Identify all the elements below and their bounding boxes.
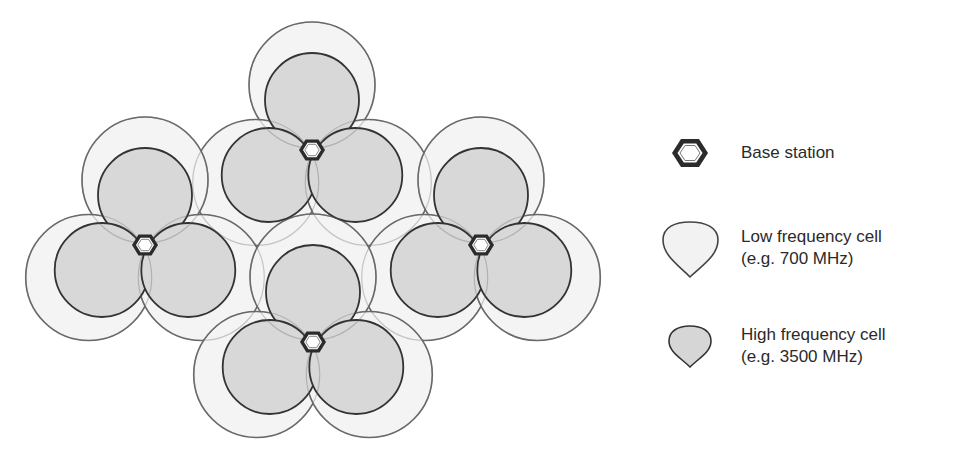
legend-line: High frequency cell bbox=[741, 324, 886, 346]
legend-line: (e.g. 700 MHz) bbox=[741, 248, 882, 270]
legend-low-frequency-label: Low frequency cell (e.g. 700 MHz) bbox=[741, 226, 882, 270]
high-frequency-cell bbox=[477, 223, 571, 317]
legend-high-frequency-cell-icon bbox=[669, 326, 711, 367]
legend-line: Base station bbox=[741, 143, 835, 162]
legend-base-station-label: Base station bbox=[741, 142, 835, 164]
high-frequency-cell bbox=[141, 223, 235, 317]
high-frequency-cell bbox=[222, 128, 316, 222]
high-frequency-cell bbox=[223, 320, 317, 414]
high-frequency-cell bbox=[55, 223, 149, 317]
high-frequency-cell bbox=[308, 128, 402, 222]
legend-line: (e.g. 3500 MHz) bbox=[741, 346, 886, 368]
legend-high-frequency-label: High frequency cell (e.g. 3500 MHz) bbox=[741, 324, 886, 368]
high-frequency-cell bbox=[391, 223, 485, 317]
legend-base-station-icon bbox=[672, 139, 708, 167]
legend-line: Low frequency cell bbox=[741, 226, 882, 248]
legend-low-frequency-cell-icon bbox=[663, 222, 718, 277]
high-frequency-cell bbox=[309, 320, 403, 414]
